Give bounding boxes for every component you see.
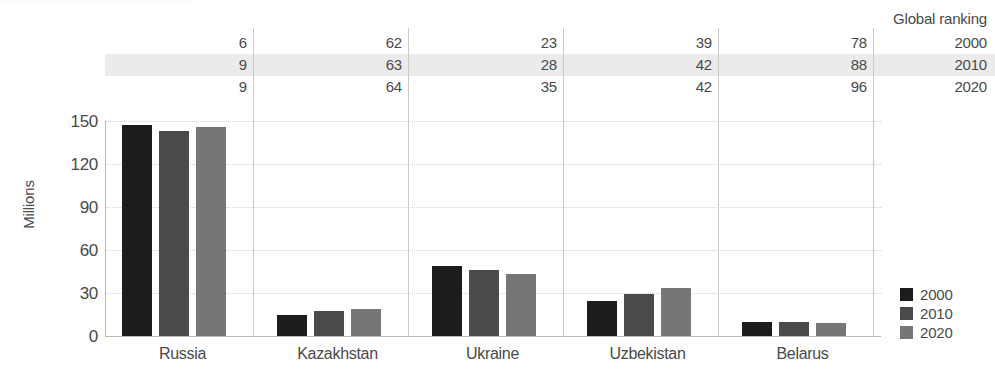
legend-label: 2010	[920, 306, 953, 321]
legend-item[interactable]: 2010	[900, 305, 990, 322]
y-axis-tick-label: 30	[28, 285, 98, 302]
bar[interactable]	[587, 301, 617, 336]
y-axis-tick-label: 150	[28, 113, 98, 130]
bar[interactable]	[432, 266, 462, 336]
bar-group	[106, 121, 261, 336]
y-axis-tick-labels: 1501209060300	[20, 121, 98, 337]
column-separator	[873, 28, 874, 336]
x-axis-category-label: Ukraine	[415, 345, 570, 363]
legend-swatch-icon	[900, 326, 913, 339]
bar[interactable]	[277, 315, 307, 337]
y-axis-tick-label: 60	[28, 242, 98, 259]
y-axis-tick-label: 90	[28, 199, 98, 216]
bar-group	[726, 121, 881, 336]
column-separator	[563, 28, 564, 336]
bar[interactable]	[742, 322, 772, 336]
legend-swatch-icon	[900, 307, 913, 320]
bar[interactable]	[779, 322, 809, 336]
bar[interactable]	[816, 323, 846, 336]
x-axis-category-label: Uzbekistan	[570, 345, 725, 363]
x-axis-category-label: Russia	[105, 345, 260, 363]
bar[interactable]	[506, 274, 536, 336]
bar[interactable]	[624, 294, 654, 336]
legend-swatch-icon	[900, 288, 913, 301]
y-axis-tick-label: 120	[28, 156, 98, 173]
column-separator	[253, 28, 254, 336]
chart-page: Global ranking 6622339782000963284288201…	[0, 0, 995, 387]
bar[interactable]	[122, 125, 152, 336]
bar[interactable]	[469, 270, 499, 336]
x-axis-category-label: Kazakhstan	[260, 345, 415, 363]
legend-label: 2020	[920, 325, 953, 340]
column-separator	[408, 28, 409, 336]
bar[interactable]	[314, 311, 344, 336]
legend-item[interactable]: 2000	[900, 286, 990, 303]
y-axis-tick-label: 0	[28, 328, 98, 345]
column-separator	[718, 28, 719, 336]
bar[interactable]	[159, 131, 189, 336]
bar[interactable]	[351, 309, 381, 336]
x-axis-category-label: Belarus	[725, 345, 880, 363]
plot-area	[105, 121, 881, 337]
bar-group	[261, 121, 416, 336]
legend-label: 2000	[920, 287, 953, 302]
grouped-bar-chart: Millions 1501209060300 RussiaKazakhstanU…	[0, 0, 995, 387]
bar[interactable]	[661, 288, 691, 336]
bar-group	[571, 121, 726, 336]
bar-group	[416, 121, 571, 336]
bar[interactable]	[196, 127, 226, 336]
legend-item[interactable]: 2020	[900, 324, 990, 341]
chart-legend: 200020102020	[900, 286, 990, 343]
